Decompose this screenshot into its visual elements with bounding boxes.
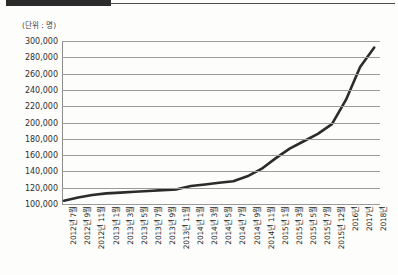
gridline xyxy=(62,155,380,156)
x-tick-label: 2015년 5월 xyxy=(307,206,318,245)
gridline xyxy=(62,123,380,124)
y-tick-label: 140,000 xyxy=(14,167,58,176)
x-tick-label: 2014년 7월 xyxy=(236,206,247,245)
x-tick-label: 2017년 xyxy=(363,206,374,231)
x-tick-label: 2013년 1월 xyxy=(110,206,121,245)
x-tick-label: 2015년 1월 xyxy=(279,206,290,245)
y-tick-label: 240,000 xyxy=(14,85,58,94)
gridline xyxy=(62,90,380,91)
chart-page: (단위 : 명) 300,000280,000260,000240,000220… xyxy=(0,0,398,275)
x-tick-label: 2014년 1월 xyxy=(194,206,205,245)
y-tick-label: 200,000 xyxy=(14,118,58,127)
gridline xyxy=(62,171,380,172)
header-divider-rule xyxy=(110,3,395,4)
gridline xyxy=(62,139,380,140)
x-tick-label: 2012년 9월 xyxy=(81,206,92,245)
gridline xyxy=(62,106,380,107)
x-tick-label: 2015년 3월 xyxy=(293,206,304,245)
y-tick-label: 160,000 xyxy=(14,151,58,160)
gridline xyxy=(62,188,380,189)
x-tick-label: 2013년 11월 xyxy=(180,206,191,249)
x-tick-label: 2014년 3월 xyxy=(208,206,219,245)
x-tick-label: 2013년 7월 xyxy=(152,206,163,245)
x-tick-label: 2013년 9월 xyxy=(166,206,177,245)
unit-label: (단위 : 명) xyxy=(22,19,56,30)
x-tick-label: 2018년 xyxy=(377,206,388,231)
y-tick-label: 280,000 xyxy=(14,53,58,62)
x-tick-label: 2014년 5월 xyxy=(222,206,233,245)
gridline xyxy=(62,204,380,205)
x-axis-tick-labels: 2012년 7월2012년 9월2012년 11월2013년 1월2013년 3… xyxy=(62,206,380,272)
x-tick-label: 2013년 5월 xyxy=(138,206,149,245)
x-tick-label: 2014년 11월 xyxy=(265,206,276,249)
y-axis-tick-labels: 300,000280,000260,000240,000220,000200,0… xyxy=(8,41,58,204)
x-tick-label: 2015년 7월 xyxy=(321,206,332,245)
x-tick-label: 2013년 3월 xyxy=(124,206,135,245)
gridline xyxy=(62,74,380,75)
header-black-bar xyxy=(6,0,111,6)
x-tick-label: 2012년 7월 xyxy=(67,206,78,245)
x-tick-label: 2016년 xyxy=(349,206,360,231)
y-tick-label: 180,000 xyxy=(14,134,58,143)
y-tick-label: 120,000 xyxy=(14,183,58,192)
y-tick-label: 260,000 xyxy=(14,69,58,78)
y-tick-label: 220,000 xyxy=(14,102,58,111)
gridline xyxy=(62,41,380,42)
gridline xyxy=(62,57,380,58)
y-tick-label: 100,000 xyxy=(14,200,58,209)
x-tick-label: 2012년 11월 xyxy=(95,206,106,249)
x-tick-label: 2015년 12월 xyxy=(335,206,346,249)
y-tick-label: 300,000 xyxy=(14,37,58,46)
x-tick-label: 2014년 9월 xyxy=(251,206,262,245)
plot-area xyxy=(62,41,380,204)
